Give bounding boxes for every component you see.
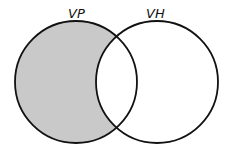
label-vh: VH (146, 6, 165, 21)
circle-vh (96, 21, 218, 143)
venn-diagram: VP VH (0, 0, 228, 156)
label-vp: VP (68, 6, 85, 21)
